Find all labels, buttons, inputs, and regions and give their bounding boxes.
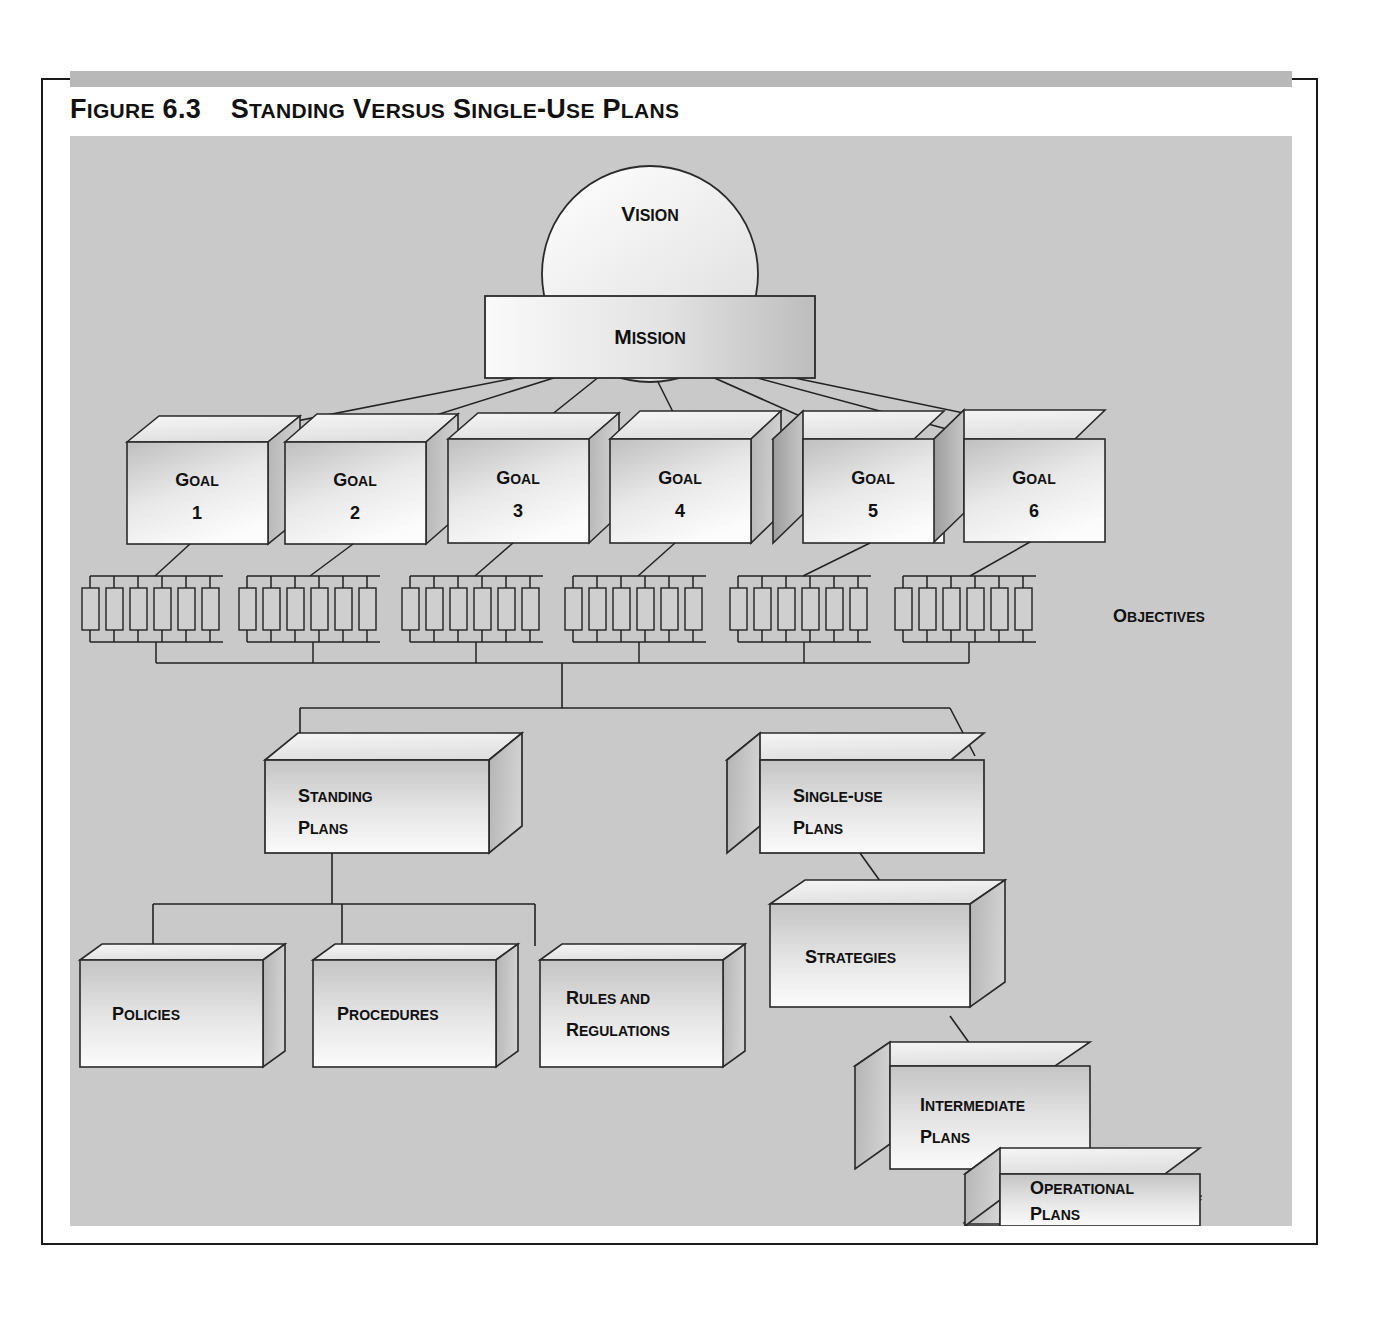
- policies-box: POLICIES: [80, 944, 285, 1067]
- rules-line2: REGULATIONS: [566, 1020, 670, 1040]
- figure-title-text: STANDING VERSUS SINGLE-USE PLANS: [231, 94, 680, 124]
- rules-and-regulations-box: RULES AND REGULATIONS: [540, 944, 745, 1067]
- objectives-group-6: [895, 576, 1036, 663]
- objective-box: [239, 588, 256, 630]
- objective-box: [106, 588, 123, 630]
- goal-cube-6: GOAL 6: [934, 410, 1105, 542]
- goal-number: 5: [868, 501, 878, 521]
- objective-box: [637, 588, 654, 630]
- objectives-group-3: [402, 576, 543, 663]
- objectives-axis-label: OBJECTIVES: [1113, 606, 1205, 626]
- objective-box: [850, 588, 867, 630]
- figure-title: FIGURE 6.3 STANDING VERSUS SINGLE-USE PL…: [70, 94, 1270, 130]
- goal-label: GOAL: [658, 468, 702, 488]
- objective-box: [335, 588, 352, 630]
- objective-box: [450, 588, 467, 630]
- objectives-group-4: [565, 576, 706, 663]
- objective-box: [895, 588, 912, 630]
- objective-box: [402, 588, 419, 630]
- goal-cube-1: GOAL 1: [127, 416, 300, 544]
- standing-plans-box: STANDING PLANS: [265, 733, 522, 853]
- goal-number: 2: [350, 503, 360, 523]
- objective-box: [287, 588, 304, 630]
- diagram-panel: VISION MISSION GOAL 1 GOAL 2 GOAL 3: [70, 136, 1292, 1226]
- objectives-group-1: [82, 576, 223, 663]
- diagram-canvas: VISION MISSION GOAL 1 GOAL 2 GOAL 3: [70, 136, 1292, 1226]
- strategies-box: STRATEGIES: [770, 880, 1005, 1007]
- objective-box: [311, 588, 328, 630]
- objectives-row: [82, 576, 1036, 663]
- objective-box: [826, 588, 843, 630]
- figure-frame: FIGURE 6.3 STANDING VERSUS SINGLE-USE PL…: [41, 78, 1318, 1245]
- objective-box: [82, 588, 99, 630]
- objective-box: [154, 588, 171, 630]
- goal-label: GOAL: [496, 468, 540, 488]
- objective-box: [943, 588, 960, 630]
- objective-box: [991, 588, 1008, 630]
- goal-cube-3: GOAL 3: [448, 413, 619, 543]
- goal-label: GOAL: [333, 470, 377, 490]
- goal-cube-2: GOAL 2: [285, 414, 458, 544]
- objective-box: [919, 588, 936, 630]
- objective-box: [178, 588, 195, 630]
- goal-number: 1: [192, 503, 202, 523]
- objective-box: [130, 588, 147, 630]
- objective-box: [263, 588, 280, 630]
- intermediate-line2: PLANS: [920, 1127, 970, 1147]
- objective-box: [426, 588, 443, 630]
- objectives-group-5: [730, 576, 871, 663]
- single-use-plans-line2: PLANS: [793, 818, 843, 838]
- goal-cube-5: GOAL 5: [773, 411, 944, 543]
- objective-box: [1015, 588, 1032, 630]
- objective-box: [498, 588, 515, 630]
- objective-box: [685, 588, 702, 630]
- goal-label: GOAL: [1012, 468, 1056, 488]
- objective-box: [474, 588, 491, 630]
- objective-box: [202, 588, 219, 630]
- intermediate-line1: INTERMEDIATE: [920, 1095, 1025, 1115]
- goal-label: GOAL: [175, 470, 219, 490]
- objective-box: [967, 588, 984, 630]
- single-use-plans-line1: SINGLE-USE: [793, 786, 883, 806]
- strategies-label: STRATEGIES: [805, 947, 896, 967]
- objective-box: [754, 588, 771, 630]
- objective-box: [730, 588, 747, 630]
- rules-line1: RULES AND: [566, 988, 650, 1008]
- goal-cube-4: GOAL 4: [610, 411, 781, 543]
- operational-plans-box-body: [965, 1197, 1200, 1224]
- objective-box: [522, 588, 539, 630]
- intermediate-plans-box: INTERMEDIATE PLANS: [855, 1042, 1090, 1169]
- objectives-group-2: [239, 576, 380, 663]
- policies-label: POLICIES: [112, 1004, 180, 1024]
- standing-plans-line1: STANDING: [298, 786, 373, 806]
- goal-number: 3: [513, 501, 523, 521]
- goal-number: 4: [675, 501, 685, 521]
- goal-to-objectives-lines: [155, 542, 1030, 576]
- objective-box: [565, 588, 582, 630]
- objective-box: [613, 588, 630, 630]
- standing-plans-line2: PLANS: [298, 818, 348, 838]
- single-use-plans-box: SINGLE-USE PLANS: [727, 733, 984, 853]
- header-stripe: [70, 71, 1292, 87]
- goal-number: 6: [1029, 501, 1039, 521]
- objective-box: [589, 588, 606, 630]
- procedures-box: PROCEDURES: [313, 944, 518, 1067]
- objective-box: [802, 588, 819, 630]
- goal-label: GOAL: [851, 468, 895, 488]
- procedures-label: PROCEDURES: [337, 1004, 438, 1024]
- figure-number-text: FIGURE 6.3: [70, 94, 201, 124]
- objective-box: [359, 588, 376, 630]
- objective-box: [661, 588, 678, 630]
- objective-box: [778, 588, 795, 630]
- standing-children-connectors: [153, 853, 535, 946]
